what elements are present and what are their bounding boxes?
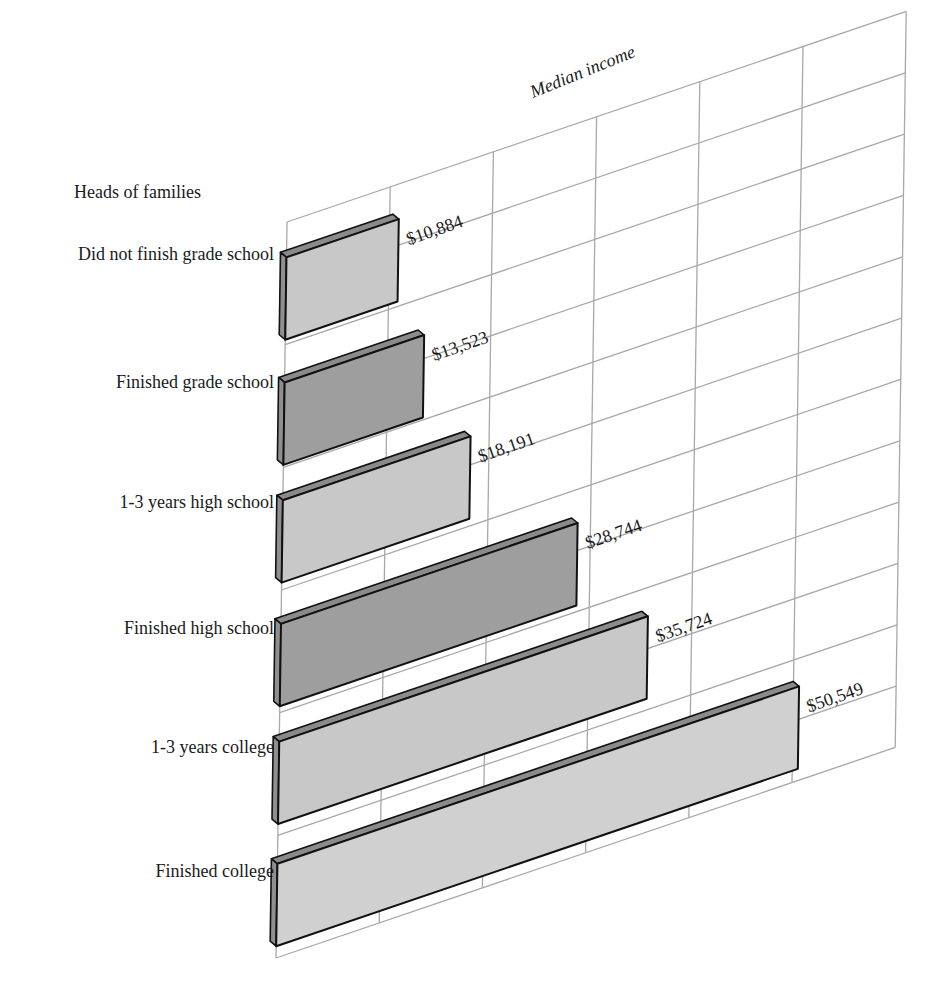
value-label: $28,744 [582, 515, 644, 553]
value-label: $35,724 [653, 608, 715, 646]
category-label: 1-3 years college [151, 737, 274, 758]
value-label: $13,523 [429, 327, 491, 365]
category-label: Did not finish grade school [78, 244, 274, 265]
value-label: $18,191 [475, 428, 537, 466]
category-label: Finished grade school [116, 372, 274, 393]
category-label: Finished high school [124, 618, 274, 639]
bars: $10,884$13,523$18,191$28,744$35,724$50,5… [270, 211, 866, 946]
category-label: Finished college [156, 861, 274, 882]
value-label: $50,549 [804, 678, 866, 716]
grid-line-horizontal [287, 11, 906, 222]
category-label: 1-3 years high school [120, 492, 274, 513]
axis-title: Median income [526, 41, 638, 102]
value-label: $10,884 [404, 211, 466, 249]
bar: $10,884 [279, 211, 465, 340]
row-header: Heads of families [74, 182, 201, 203]
